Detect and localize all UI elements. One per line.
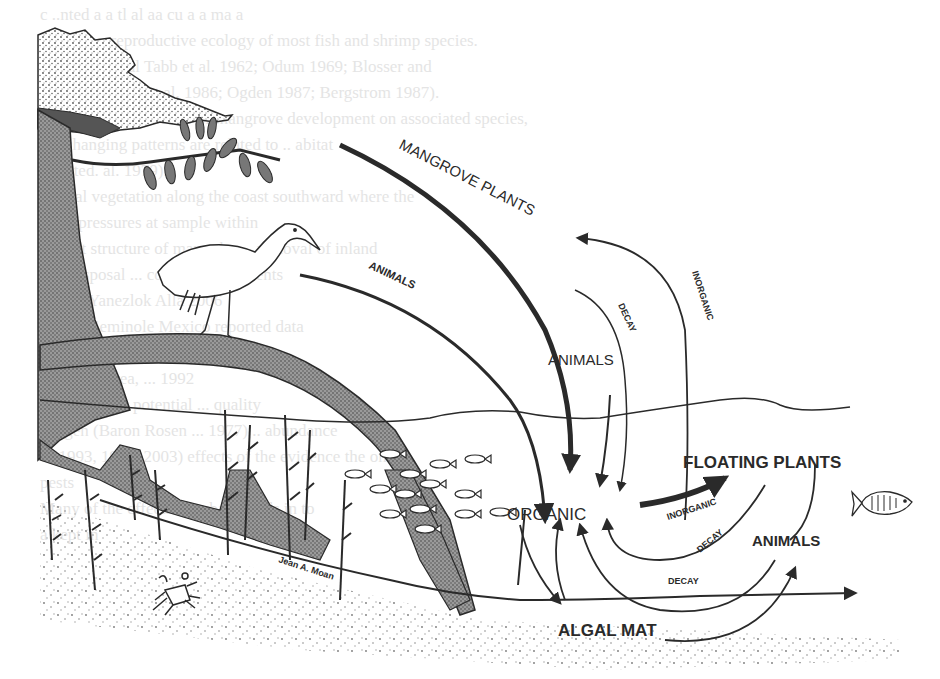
label-inorganic-upper: INORGANIC <box>690 270 716 323</box>
heron-illustration <box>158 224 320 338</box>
fish-illustration <box>852 492 912 516</box>
label-floating-plants: FLOATING PLANTS <box>683 453 841 472</box>
label-animals-center: ANIMALS <box>548 351 614 368</box>
arrow-inorganic-to-mangrove <box>578 238 688 520</box>
label-decay-upper: DECAY <box>616 302 638 334</box>
sediment <box>40 500 900 670</box>
arrow-floating-to-animals <box>790 465 815 540</box>
arrow-animals-center-to-organic <box>600 395 610 485</box>
label-decay-right: DECAY <box>695 527 725 554</box>
label-organic: ORGANIC <box>507 505 586 524</box>
arrow-algal-to-organic <box>556 520 565 600</box>
arrow-organic-to-algal <box>520 525 560 603</box>
label-mangrove-plants: MANGROVE PLANTS <box>397 136 538 219</box>
flow-arrows <box>300 145 815 641</box>
label-algal-mat: ALGAL MAT <box>558 621 657 640</box>
label-animals-upper-left: ANIMALS <box>367 259 417 291</box>
water-surface-line <box>40 398 850 422</box>
label-animals-right: ANIMALS <box>752 532 820 549</box>
mangrove-ecosystem-diagram: Jean A. Moan MANGROVE PLANTS ANIMALS ANI… <box>0 0 940 679</box>
arrow-decay-to-organic <box>575 290 627 490</box>
label-decay-bottom: DECAY <box>668 576 699 586</box>
